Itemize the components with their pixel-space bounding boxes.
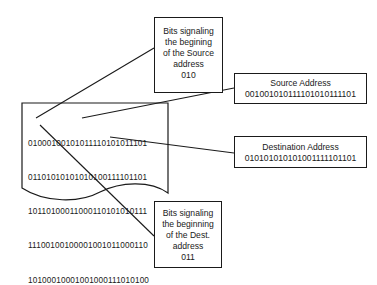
callout-text: Bits signaling xyxy=(155,208,221,219)
callout-value: 010101010101001111101101 xyxy=(235,153,366,164)
bit-line: 10110100011000110101010111 xyxy=(28,206,149,217)
callout-text: of the Source xyxy=(155,48,222,59)
callout-text: 011 xyxy=(155,252,221,263)
bit-line: 01000100101011110101011101 xyxy=(28,138,149,149)
callout-source-start: Bits signaling the begining of the Sourc… xyxy=(154,17,223,93)
callout-text: the begining xyxy=(155,37,222,48)
bit-line: 10100010001001000111010100 xyxy=(28,275,149,285)
callout-value: 001001010111101010111101 xyxy=(235,89,366,100)
callout-title: Source Address xyxy=(235,78,366,89)
callout-source-address: Source Address 001001010111101010111101 xyxy=(234,73,367,104)
callout-title: Destination Address xyxy=(235,142,366,153)
callout-text: the beginning xyxy=(155,219,221,230)
callout-text: address xyxy=(155,241,221,252)
callout-text: address xyxy=(155,59,222,70)
bit-line: 01101010101010100111101101 xyxy=(28,172,149,183)
callout-text: Bits signaling xyxy=(155,26,222,37)
document-bitstream: 01000100101011110101011101 0110101010101… xyxy=(28,115,149,285)
callout-text: 010 xyxy=(155,70,222,81)
bit-line: 11100100100001001011000110 xyxy=(28,240,149,251)
callout-dest-start: Bits signaling the beginning of the Dest… xyxy=(154,201,222,268)
callout-destination-address: Destination Address 01010101010100111110… xyxy=(234,136,367,168)
callout-text: of the Dest. xyxy=(155,230,221,241)
